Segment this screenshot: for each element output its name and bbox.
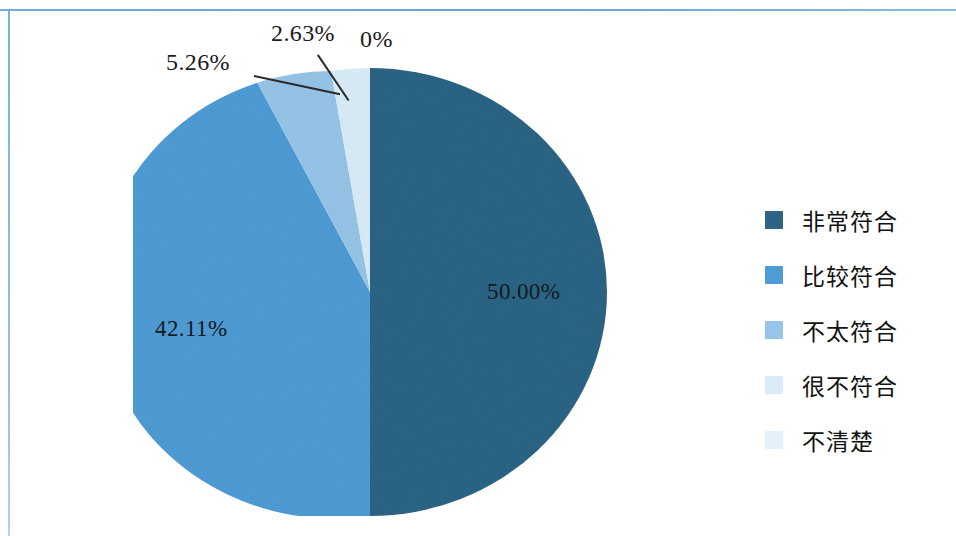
legend-label-very-not-conform: 很不符合 (802, 368, 898, 402)
data-label-unclear: 0% (360, 26, 393, 53)
data-label-fairly-conform: 42.11% (155, 316, 227, 342)
data-label-very-conform: 50.00% (487, 279, 560, 305)
legend-item-very-not-conform: 很不符合 (765, 357, 935, 412)
legend-item-fairly-conform: 比较符合 (765, 247, 935, 302)
legend-item-unclear: 不清楚 (765, 412, 935, 467)
legend-label-not-quite-conform: 不太符合 (802, 313, 898, 347)
legend-label-unclear: 不清楚 (802, 423, 874, 457)
legend-swatch-very-not-conform (765, 376, 783, 394)
legend-item-very-conform: 非常符合 (765, 192, 935, 247)
legend-label-very-conform: 非常符合 (802, 203, 898, 237)
chart-legend: 非常符合 比较符合 不太符合 很不符合 不清楚 (765, 192, 935, 467)
data-label-not-quite-conform: 5.26% (166, 49, 230, 76)
legend-item-not-quite-conform: 不太符合 (765, 302, 935, 357)
legend-swatch-fairly-conform (765, 266, 783, 284)
data-label-very-not-conform: 2.63% (271, 20, 335, 47)
pie-chart: 50.00% 42.11% 5.26% 2.63% 0% 非常符合 比较符合 不… (0, 0, 956, 536)
legend-label-fairly-conform: 比较符合 (802, 258, 898, 292)
legend-swatch-very-conform (765, 211, 783, 229)
legend-swatch-unclear (765, 431, 783, 449)
legend-swatch-not-quite-conform (765, 321, 783, 339)
